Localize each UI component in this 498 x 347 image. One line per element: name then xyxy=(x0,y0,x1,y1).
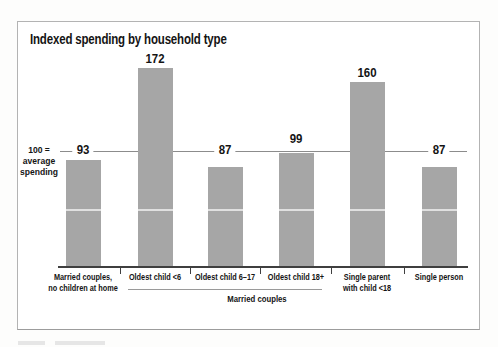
page-edge-artifact xyxy=(18,341,45,345)
chart-page: Indexed spending by household type 100 =… xyxy=(0,0,498,347)
bar-single-person xyxy=(422,167,457,268)
bar-value-oldest-child-18-plus: 99 xyxy=(290,132,303,145)
reference-line-label: 100 = average spending xyxy=(19,144,59,177)
x-label-single-person: Single person xyxy=(392,272,487,283)
group-bracket-line xyxy=(128,289,322,290)
bar-single-parent xyxy=(350,82,385,267)
bar-value-oldest-child-under-6: 172 xyxy=(145,52,164,65)
group-label: Married couples xyxy=(227,294,286,304)
chart-title: Indexed spending by household type xyxy=(30,31,227,47)
bar-value-single-parent: 160 xyxy=(357,66,376,79)
bar-value-oldest-child-6-17: 87 xyxy=(214,143,236,156)
bar-married-no-children xyxy=(66,160,101,267)
page-edge-artifact xyxy=(55,341,105,345)
bar-value-single-person: 87 xyxy=(428,143,450,156)
bar-value-married-no-children: 93 xyxy=(72,143,94,156)
reference-line-100 xyxy=(60,151,467,152)
bar-oldest-child-under-6 xyxy=(138,68,173,267)
bar-oldest-child-6-17 xyxy=(208,167,243,268)
gridline-50-highlight xyxy=(58,209,468,211)
